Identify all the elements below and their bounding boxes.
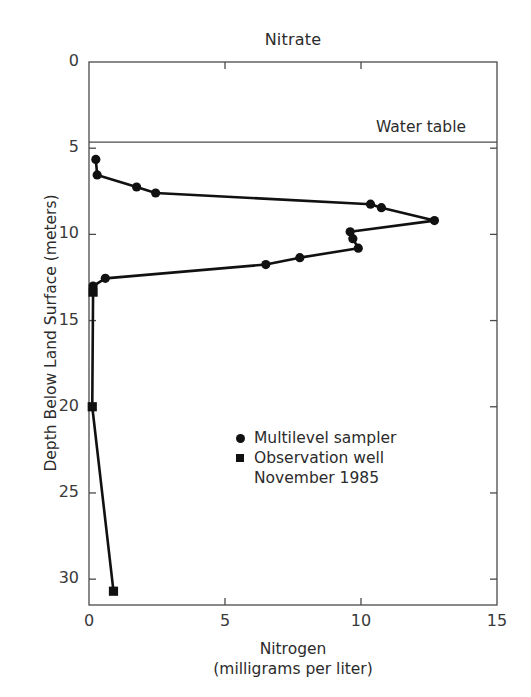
plot-frame <box>89 62 497 605</box>
x-tick-label: 5 <box>195 611 255 630</box>
nitrate-depth-profile-chart: Nitrate Depth Below Land Surface (meters… <box>0 0 531 697</box>
legend-label-observation-well: Observation well <box>254 448 384 468</box>
data-point-circle <box>151 188 160 197</box>
chart-legend: Multilevel sampler Observation well Nove… <box>236 428 396 488</box>
y-tick-label: 25 <box>23 482 79 501</box>
series-line <box>92 286 113 591</box>
legend-item-multilevel-sampler: Multilevel sampler <box>236 428 396 448</box>
data-point-circle <box>366 200 375 209</box>
legend-label-multilevel-sampler: Multilevel sampler <box>254 428 396 448</box>
data-point-circle <box>101 274 110 283</box>
data-point-circle <box>295 253 304 262</box>
y-tick-label: 15 <box>23 310 79 329</box>
series-observation-well <box>88 286 118 596</box>
x-tick-label: 15 <box>467 611 527 630</box>
y-tick-label: 10 <box>23 223 79 242</box>
plot-canvas <box>0 0 531 697</box>
data-point-circle <box>93 170 102 179</box>
y-tick-label: 5 <box>23 137 79 156</box>
legend-item-observation-well: Observation well <box>236 448 396 468</box>
data-point-square <box>88 288 97 297</box>
x-tick-label: 10 <box>331 611 391 630</box>
data-point-circle <box>354 244 363 253</box>
data-point-square <box>88 402 97 411</box>
y-tick-label: 0 <box>23 51 79 70</box>
y-tick-label: 20 <box>23 396 79 415</box>
data-point-circle <box>132 182 141 191</box>
legend-note-date: November 1985 <box>236 468 396 488</box>
data-point-square <box>109 587 118 596</box>
data-point-circle <box>348 234 357 243</box>
x-tick-label: 0 <box>59 611 119 630</box>
data-point-circle <box>91 155 100 164</box>
series-multilevel-sampler <box>88 155 439 291</box>
y-tick-label: 30 <box>23 568 79 587</box>
water-table-label: Water table <box>376 118 466 136</box>
data-point-circle <box>430 216 439 225</box>
data-point-circle <box>377 203 386 212</box>
data-point-circle <box>261 260 270 269</box>
